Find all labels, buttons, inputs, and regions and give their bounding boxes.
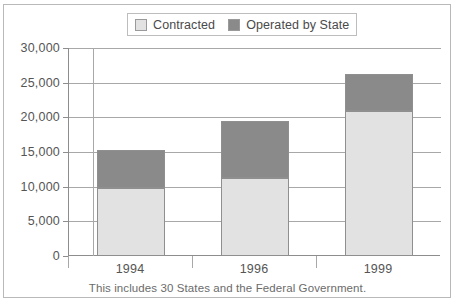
bar-segment-operated-by-state (97, 150, 165, 188)
legend-item-contracted: Contracted (135, 18, 215, 32)
x-axis-origin-tick (68, 256, 69, 268)
bar-segment-contracted (97, 188, 165, 256)
x-axis-separator (192, 256, 193, 268)
x-axis-separator (316, 256, 317, 268)
bar-stack (97, 150, 165, 256)
legend-item-operated-by-state: Operated by State (228, 18, 349, 32)
y-axis-tick-label: 25,000 (21, 76, 60, 90)
y-axis-tick (63, 83, 69, 84)
y-axis-tick (63, 117, 69, 118)
bar-stack (345, 74, 413, 256)
plot-inner-vertical-rule (93, 48, 94, 256)
bar-segment-contracted (345, 111, 413, 256)
chart-legend: Contracted Operated by State (127, 13, 357, 36)
chart-figure: Contracted Operated by State 05,00010,00… (0, 0, 455, 306)
y-axis-tick (63, 152, 69, 153)
y-axis-tick-label: 15,000 (21, 145, 60, 159)
y-axis-tick-label: 30,000 (21, 41, 60, 55)
bar-segment-operated-by-state (345, 74, 413, 111)
bar-segment-contracted (221, 178, 289, 256)
x-axis-tick-label: 1994 (85, 262, 175, 276)
y-axis-tick-label: 5,000 (28, 214, 60, 228)
y-axis-tick (63, 48, 69, 49)
legend-label-operated-by-state: Operated by State (246, 18, 349, 32)
bar-segment-operated-by-state (221, 121, 289, 178)
y-axis-tick-label: 10,000 (21, 180, 60, 194)
y-axis-tick (63, 221, 69, 222)
bar-stack (221, 121, 289, 256)
gridline (69, 48, 441, 49)
figure-caption: This includes 30 States and the Federal … (0, 282, 455, 294)
y-axis-tick-label: 0 (53, 249, 60, 263)
y-axis-labels: 05,00010,00015,00020,00025,00030,000 (0, 48, 60, 256)
legend-swatch-operated-by-state (228, 19, 240, 31)
legend-label-contracted: Contracted (153, 18, 215, 32)
x-axis-tick-label: 1999 (333, 262, 423, 276)
plot-area (68, 48, 440, 256)
legend-swatch-contracted (135, 19, 147, 31)
x-axis-tick-label: 1996 (209, 262, 299, 276)
y-axis-tick (63, 187, 69, 188)
y-axis-tick-label: 20,000 (21, 110, 60, 124)
